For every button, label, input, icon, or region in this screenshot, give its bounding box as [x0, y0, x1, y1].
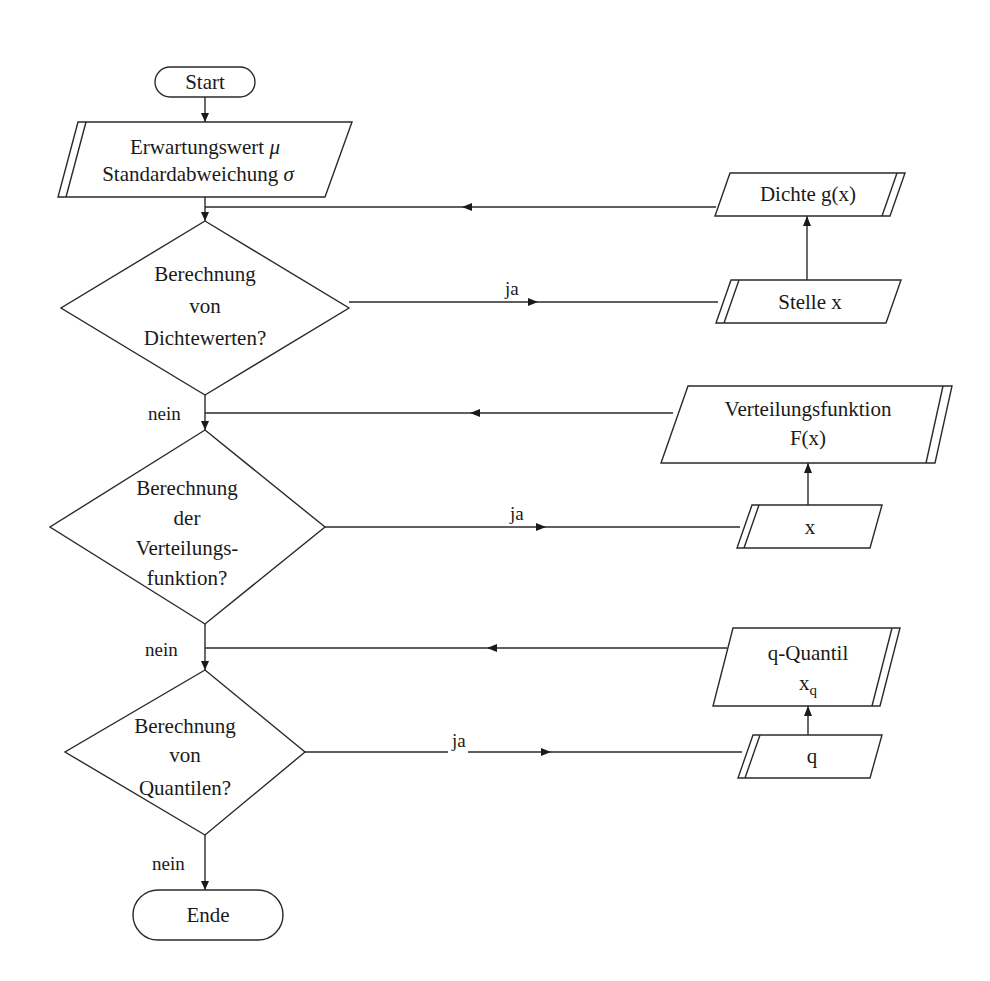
- quantile-subscript: q: [810, 682, 818, 698]
- edge-label-yes: ja: [451, 730, 466, 751]
- node-input-position: Stelle x: [716, 280, 901, 323]
- arrow-up-icon: [804, 463, 812, 473]
- node-input-x: x: [737, 505, 882, 548]
- arrow-right-icon: [528, 298, 538, 306]
- node-start-label: Start: [185, 70, 225, 94]
- node-input-params-line-2: Standardabweichung: [102, 162, 279, 186]
- edge-label-yes: ja: [504, 278, 519, 299]
- flowchart: ja nein ja nein ja nein Start Erwart: [0, 0, 990, 981]
- arrow-down-icon: [201, 113, 209, 122]
- arrow-down-icon: [201, 881, 209, 890]
- node-input-params: Erwartungswert μ Standardabweichung σ: [58, 122, 352, 197]
- decision-cdf-line-4: funktion?: [147, 566, 227, 590]
- node-input-q: q: [738, 735, 882, 778]
- node-decision-cdf: Berechnung der Verteilungs- funktion?: [50, 430, 325, 624]
- decision-quantile-line-1: Berechnung: [134, 714, 236, 738]
- node-output-quantile: q-Quantil xq: [713, 628, 900, 706]
- arrow-down-icon: [201, 421, 209, 430]
- arrow-up-icon: [804, 706, 812, 716]
- decision-quantile-line-3: Quantilen?: [139, 776, 231, 800]
- arrow-up-icon: [803, 216, 811, 226]
- node-decision-density: Berechnung von Dichtewerten?: [61, 221, 349, 395]
- node-input-x-label: x: [805, 515, 816, 539]
- sigma-symbol: σ: [284, 162, 296, 186]
- edge-label-no: nein: [148, 403, 181, 424]
- svg-text:Erwartungswert μ: Erwartungswert μ: [130, 135, 280, 159]
- node-input-position-label: Stelle x: [778, 290, 842, 314]
- arrow-down-icon: [201, 212, 209, 221]
- decision-density-line-1: Berechnung: [154, 262, 256, 286]
- decision-density-line-3: Dichtewerten?: [144, 326, 266, 350]
- node-end: Ende: [133, 890, 283, 940]
- node-output-density: Dichte g(x): [715, 173, 905, 216]
- node-output-density-label: Dichte g(x): [760, 182, 856, 206]
- node-input-q-label: q: [807, 744, 818, 768]
- decision-density-line-2: von: [189, 294, 221, 318]
- decision-cdf-line-2: der: [174, 506, 201, 530]
- arrow-left-icon: [462, 203, 472, 211]
- decision-cdf-line-1: Berechnung: [136, 476, 238, 500]
- node-end-label: Ende: [186, 903, 229, 927]
- output-cdf-line-1: Verteilungsfunktion: [725, 397, 892, 421]
- output-quantile-line-1: q-Quantil: [768, 641, 849, 665]
- svg-text:Standardabweichung σ: Standardabweichung σ: [102, 162, 295, 186]
- decision-quantile-line-2: von: [169, 743, 201, 767]
- edge-label-no: nein: [152, 853, 185, 874]
- arrow-right-icon: [541, 748, 551, 756]
- edge-label-no: nein: [145, 639, 178, 660]
- node-input-params-line-1: Erwartungswert: [130, 135, 264, 159]
- decision-cdf-line-3: Verteilungs-: [136, 536, 239, 560]
- output-cdf-line-2: F(x): [790, 426, 826, 450]
- node-decision-quantile: Berechnung von Quantilen?: [65, 670, 305, 835]
- node-start: Start: [155, 67, 255, 97]
- arrow-right-icon: [536, 523, 546, 531]
- arrow-left-icon: [470, 409, 480, 417]
- node-output-cdf: Verteilungsfunktion F(x): [661, 386, 952, 463]
- output-quantile-line-2: x: [799, 671, 810, 695]
- edge-label-yes: ja: [509, 503, 524, 524]
- mu-symbol: μ: [268, 135, 280, 159]
- arrow-left-icon: [487, 644, 497, 652]
- arrow-down-icon: [201, 661, 209, 670]
